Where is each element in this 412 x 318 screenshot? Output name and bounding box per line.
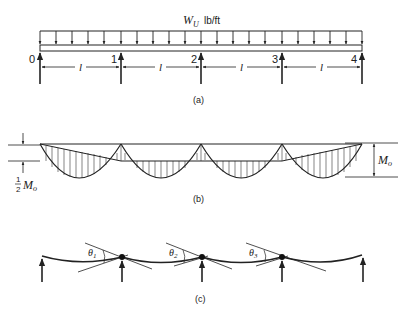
span-label-2: l — [159, 61, 162, 73]
moment-hatching — [46, 146, 356, 178]
half-fraction-den: 2 — [16, 185, 21, 194]
half-moment-label: Mo — [22, 178, 37, 193]
support-label-3: 3 — [272, 53, 278, 65]
moment-label: Mo — [377, 153, 392, 168]
support-label-1: 1 — [111, 53, 117, 65]
span-label-4: l — [320, 61, 323, 73]
caption-a: (a) — [193, 95, 204, 105]
support-arrows-icon — [40, 53, 362, 84]
beam — [40, 45, 362, 51]
span-label-1: l — [79, 61, 82, 73]
continuous-beam-diagram: WU lb/ft — [0, 0, 412, 318]
theta-3-label: θ3 — [249, 247, 258, 260]
theta-1-label: θ1 — [88, 247, 96, 260]
rotation-arcs — [103, 250, 266, 263]
theta-2-label: θ2 — [169, 247, 178, 260]
part-a-loaded-beam: WU lb/ft — [29, 13, 362, 105]
half-moment-dimension — [8, 133, 40, 173]
joint-dots-icon — [119, 254, 285, 260]
support-label-4: 4 — [351, 53, 357, 65]
load-label: WU — [183, 13, 200, 29]
part-b-moment-diagram: 1 2 Mo Mo (b) — [8, 133, 398, 204]
support-label-2: 2 — [191, 53, 197, 65]
span-label-3: l — [240, 61, 243, 73]
load-units: lb/ft — [204, 15, 220, 26]
load-arrows-icon — [40, 31, 362, 44]
support-label-0: 0 — [29, 53, 35, 65]
part-c-deflected-shape: θ1 θ2 θ3 (c) — [42, 243, 363, 304]
caption-b: (b) — [193, 194, 204, 204]
caption-c: (c) — [195, 294, 206, 304]
half-fraction-num: 1 — [16, 175, 21, 184]
